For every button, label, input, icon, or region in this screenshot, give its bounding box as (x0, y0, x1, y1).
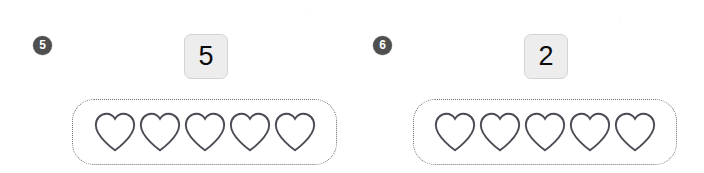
heart-icon (93, 111, 137, 153)
heart-icon (613, 111, 657, 153)
worksheet-page: 5 5 6 2 (0, 0, 704, 173)
heart-icon (228, 111, 272, 153)
answer-box[interactable]: 2 (524, 34, 568, 79)
heart-icon (568, 111, 612, 153)
shape-group-dotted-box (413, 99, 677, 165)
heart-icon (478, 111, 522, 153)
exercise-item-6: 6 2 (352, 0, 704, 173)
item-number-badge: 6 (373, 36, 392, 55)
answer-value: 5 (198, 43, 213, 70)
exercise-item-5: 5 5 (0, 0, 352, 173)
heart-icon (183, 111, 227, 153)
heart-icon (433, 111, 477, 153)
answer-box[interactable]: 5 (184, 34, 228, 79)
item-number-badge: 5 (33, 36, 52, 55)
heart-icon (273, 111, 317, 153)
heart-icon (523, 111, 567, 153)
heart-icon (138, 111, 182, 153)
answer-value: 2 (538, 43, 553, 70)
shape-group-dotted-box (72, 99, 337, 165)
